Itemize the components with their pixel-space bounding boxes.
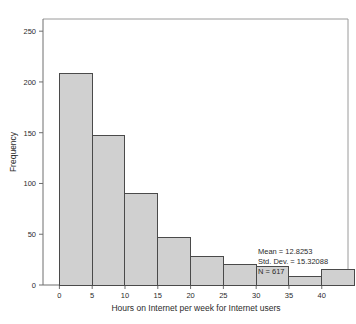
- y-tick-label: 200: [23, 78, 36, 87]
- x-tick-label: 20: [186, 291, 194, 300]
- histogram-bar: [191, 257, 224, 285]
- y-tick-label: 50: [28, 230, 36, 239]
- histogram-bar: [289, 277, 322, 285]
- y-axis-ticks: 050100150200250: [23, 27, 43, 290]
- x-tick-label: 25: [219, 291, 227, 300]
- x-tick-label: 5: [90, 291, 94, 300]
- annotation-stddev: Std. Dev. = 15.32088: [258, 257, 328, 266]
- statistics-annotation: Mean = 12.8253 Std. Dev. = 15.32088 N = …: [258, 247, 328, 276]
- x-tick-label: 35: [285, 291, 293, 300]
- x-axis-ticks: 0510152025303540: [57, 285, 326, 300]
- annotation-n: N = 617: [258, 267, 284, 276]
- x-tick-label: 30: [252, 291, 260, 300]
- histogram-bar: [158, 237, 191, 285]
- y-tick-label: 250: [23, 27, 36, 36]
- x-tick-label: 40: [318, 291, 326, 300]
- histogram-figure: 050100150200250 0510152025303540 Frequen…: [0, 0, 356, 324]
- y-axis-title: Frequency: [8, 131, 18, 172]
- x-tick-label: 15: [154, 291, 162, 300]
- y-tick-label: 0: [32, 281, 36, 290]
- histogram-bar: [223, 265, 256, 285]
- x-tick-label: 0: [57, 291, 61, 300]
- histogram-bar: [125, 194, 158, 285]
- histogram-bar: [59, 74, 92, 285]
- histogram-bar: [92, 136, 125, 285]
- histogram-svg: 050100150200250 0510152025303540 Frequen…: [0, 0, 356, 324]
- y-tick-label: 100: [23, 179, 36, 188]
- x-axis-title: Hours on Internet per week for Internet …: [111, 303, 280, 313]
- x-tick-label: 10: [121, 291, 129, 300]
- histogram-bar: [322, 270, 355, 285]
- y-tick-label: 150: [23, 129, 36, 138]
- annotation-mean: Mean = 12.8253: [258, 247, 312, 256]
